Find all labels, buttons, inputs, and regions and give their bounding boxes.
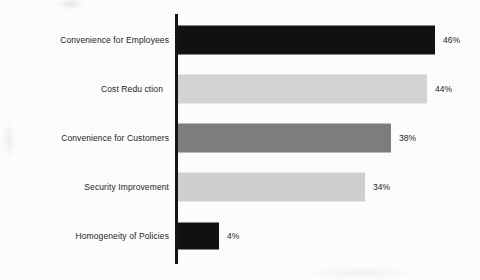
bar-category-label: Convenience for Customers <box>61 133 169 143</box>
bar-category-label: Security Improvement <box>84 182 169 192</box>
bar <box>178 75 427 104</box>
bar <box>178 124 391 153</box>
bar-category-label: Convenience for Employees <box>60 35 169 45</box>
bar-row: Cost Redu ction44% <box>0 66 480 112</box>
bar-row: Homogeneity of Policies4% <box>0 213 480 259</box>
bar-value-label: 34% <box>373 182 390 192</box>
bar <box>178 173 365 202</box>
bar-value-label: 4% <box>227 231 239 241</box>
bar <box>178 26 435 55</box>
category-axis-line <box>175 14 178 264</box>
bar-value-label: 38% <box>399 133 416 143</box>
bar-category-label: Cost Redu ction <box>101 84 177 94</box>
bar-row: Convenience for Customers38% <box>0 115 480 161</box>
bar-category-label: Homogeneity of Policies <box>76 231 169 241</box>
bar-value-label: 46% <box>443 35 460 45</box>
bar-row: Security Improvement34% <box>0 164 480 210</box>
bar <box>178 223 219 250</box>
bar-row: Convenience for Employees46% <box>0 17 480 63</box>
bar-value-label: 44% <box>435 84 452 94</box>
